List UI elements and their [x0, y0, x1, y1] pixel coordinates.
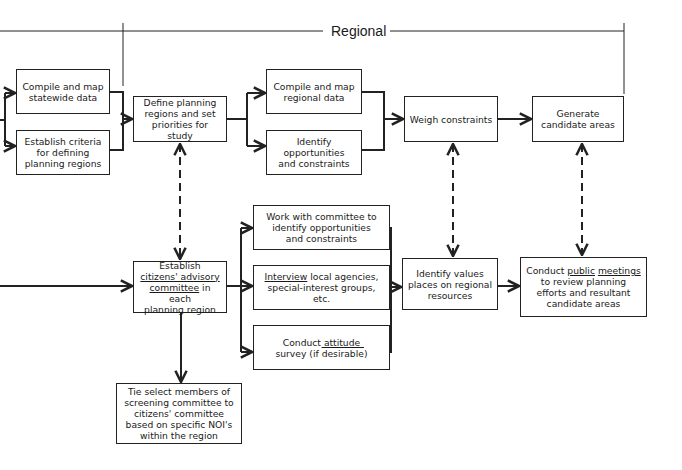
node-establish-criteria: Establish criteriafor definingplanning r…	[16, 130, 110, 175]
node-text-underlined: committee	[150, 282, 200, 293]
node-text: candidate areas	[541, 119, 615, 130]
node-text: survey (if	[275, 348, 321, 359]
node-text: efforts and resultant	[537, 287, 631, 298]
node-tie-select-members: Tie select members ofscreening committee…	[116, 383, 242, 444]
node-text: Weigh constraints	[410, 114, 492, 125]
node-text: Compile and map	[22, 81, 103, 92]
node-text-underlined: meetings	[598, 265, 641, 276]
node-text: for defining	[37, 147, 90, 158]
node-identify-values: Identify valuesplaces on regionalresourc…	[402, 258, 498, 310]
node-text: planning region	[144, 304, 216, 315]
node-text: Conduct	[283, 337, 324, 348]
node-text: local agencies,	[307, 271, 378, 282]
node-text: )	[364, 348, 368, 359]
node-text: screening committee to	[124, 397, 233, 408]
node-define-planning-regions: Define planningregions and setpriorities…	[133, 96, 227, 142]
node-text: Identify values	[416, 268, 483, 279]
node-text: regional data	[284, 92, 345, 103]
node-text: Conduct	[526, 265, 567, 276]
node-text: special-interest groups,	[268, 282, 376, 293]
node-text: to review planning	[541, 276, 626, 287]
node-text-underlined: attitude	[324, 337, 360, 348]
node-text: Establish criteria	[25, 136, 102, 147]
node-weigh-constraints: Weigh constraints	[404, 96, 498, 142]
node-text: and constraints	[278, 158, 349, 169]
node-work-with-committee: Work with committee toidentify opportuni…	[253, 205, 390, 250]
node-text: Define planning	[144, 97, 217, 108]
node-text-underlined: Interview	[265, 271, 308, 282]
node-text: opportunities	[283, 147, 344, 158]
node-text: Establish	[159, 260, 200, 271]
node-text: Tie select members of	[128, 386, 230, 397]
node-generate-candidate-areas: Generatecandidate areas	[532, 96, 624, 142]
node-text: resources	[428, 290, 473, 301]
node-text: places on regional	[408, 279, 492, 290]
node-text: based on specific NOI's	[126, 419, 233, 430]
node-identify-opportunities: Identifyopportunitiesand constraints	[266, 130, 362, 175]
node-text: statewide data	[29, 92, 97, 103]
node-attitude-survey: Conduct attitude survey (if desirable)	[253, 325, 390, 370]
node-text: priorities for study	[152, 119, 208, 141]
node-text: regions and set	[144, 108, 215, 119]
node-text: planning regions	[25, 158, 102, 169]
node-establish-citizens-committee: Establish citizens' advisory committee i…	[133, 261, 227, 313]
node-text: candidate areas	[547, 298, 621, 309]
node-text: Generate	[557, 108, 600, 119]
node-public-meetings: Conduct public meetings to review planni…	[520, 257, 647, 317]
node-text: Identify	[297, 136, 332, 147]
node-interview-agencies: Interview local agencies, special-intere…	[253, 265, 390, 310]
node-compile-statewide-data: Compile and mapstatewide data	[16, 69, 110, 114]
node-text-underlined: citizens' advisory	[140, 271, 219, 282]
node-text: within the region	[140, 430, 218, 441]
node-text-overlined: desirable	[322, 348, 364, 359]
node-text: citizens' committee	[134, 408, 224, 419]
node-text: Compile and map	[273, 81, 354, 92]
node-text-underlined: public	[567, 265, 595, 276]
node-text: etc.	[313, 293, 330, 304]
node-text: identify opportunities	[272, 222, 371, 233]
node-compile-regional-data: Compile and mapregional data	[266, 69, 362, 114]
node-text: and constraints	[286, 233, 357, 244]
regional-label: Regional	[327, 23, 390, 39]
node-text: Work with committee to	[266, 211, 376, 222]
